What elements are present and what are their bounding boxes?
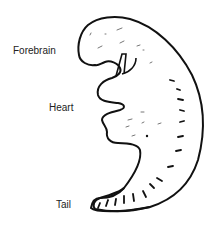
interior-marks (90, 28, 161, 136)
embryo-body-outline (78, 17, 202, 211)
somites (98, 80, 184, 208)
embryo-outline (0, 0, 218, 227)
tail-outline (91, 188, 150, 211)
label-heart: Heart (49, 103, 73, 113)
interior-dot (146, 135, 148, 137)
label-forebrain: Forebrain (13, 46, 56, 56)
label-tail: Tail (56, 200, 71, 210)
